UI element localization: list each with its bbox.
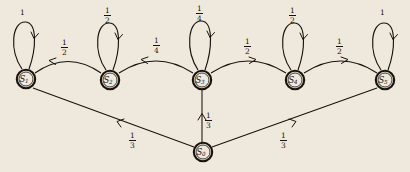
self-loop-label-s3: 1 4 xyxy=(196,5,203,22)
edge-s3-to-s4 xyxy=(211,61,286,73)
arrowhead-s4-to-s5 xyxy=(341,57,348,64)
self-loop-label-s2-denominator: 2 xyxy=(104,16,111,24)
state-node-s0[interactable]: S0 xyxy=(194,143,212,161)
transition-label-s0-s3-denominator: 3 xyxy=(205,121,212,129)
self-loop-label-s1: 1 xyxy=(20,9,25,17)
transition-label-s3-s4: 1 2 xyxy=(244,38,251,55)
transition-label-s3-s2-numerator: 1 xyxy=(153,37,160,46)
transition-label-s0-s5: 1 3 xyxy=(280,132,287,149)
state-node-s2[interactable]: S2 xyxy=(101,71,119,89)
transition-label-s2-s1-denominator: 2 xyxy=(61,48,68,56)
transition-label-s0-s5-denominator: 3 xyxy=(280,141,287,149)
transition-label-s3-s2: 1 4 xyxy=(153,37,160,54)
transition-label-s4-s5-numerator: 1 xyxy=(336,38,343,47)
self-loop-label-s3-denominator: 4 xyxy=(196,14,203,22)
transition-label-s4-s5-denominator: 2 xyxy=(336,47,343,55)
self-loop-label-s4-numerator: 1 xyxy=(289,7,296,16)
self-loop-label-s4-denominator: 2 xyxy=(289,16,296,24)
edge-s2-to-s1 xyxy=(35,62,101,74)
state-subscript-s3: 3 xyxy=(201,79,205,85)
state-node-s3[interactable]: S3 xyxy=(193,71,211,89)
state-subscript-s2: 2 xyxy=(108,79,113,85)
state-node-s4[interactable]: S4 xyxy=(286,71,304,89)
transition-label-s0-s1-numerator: 1 xyxy=(129,132,136,141)
edge-s3-to-s2 xyxy=(119,61,193,73)
self-loop-label-s4: 1 2 xyxy=(289,7,296,24)
transition-label-s0-s5-numerator: 1 xyxy=(280,132,287,141)
state-subscript-s5: 5 xyxy=(384,79,388,85)
transition-label-s0-s3-numerator: 1 xyxy=(205,112,212,121)
self-loop-s3 xyxy=(190,21,211,70)
edge-s0-to-s5 xyxy=(212,88,377,147)
edge-s0-to-s1 xyxy=(33,88,194,147)
transition-label-s0-s3: 1 3 xyxy=(205,112,212,129)
state-subscript-s1: 1 xyxy=(25,78,29,84)
state-diagram-canvas: S1 S2 S3 S4 S5 xyxy=(0,0,410,172)
transition-label-s0-s1-denominator: 3 xyxy=(129,141,136,149)
arrowhead-s0-to-s1 xyxy=(117,119,124,127)
self-loop-label-s2: 1 2 xyxy=(104,7,111,24)
transition-label-s4-s5: 1 2 xyxy=(336,38,343,55)
state-subscript-s0: 0 xyxy=(202,151,206,157)
state-node-s5[interactable]: S5 xyxy=(376,71,394,89)
transition-label-s3-s4-numerator: 1 xyxy=(244,38,251,47)
transition-label-s3-s2-denominator: 4 xyxy=(153,46,160,54)
self-loop-s2 xyxy=(98,23,119,70)
transition-label-s3-s4-denominator: 2 xyxy=(244,47,251,55)
self-loop-s1 xyxy=(14,22,35,69)
self-loop-label-s2-numerator: 1 xyxy=(104,7,111,16)
edge-s4-to-s5 xyxy=(304,61,377,73)
transition-label-s0-s1: 1 3 xyxy=(129,132,136,149)
self-loop-label-s5: 1 xyxy=(380,9,385,17)
state-node-s1[interactable]: S1 xyxy=(17,70,35,88)
transition-label-s2-s1-numerator: 1 xyxy=(61,39,68,48)
self-loop-label-s3-numerator: 1 xyxy=(196,5,203,14)
self-loop-s5 xyxy=(373,23,394,70)
arrowhead-s3-to-s4 xyxy=(249,57,256,64)
self-loop-s4 xyxy=(283,23,304,70)
state-subscript-s4: 4 xyxy=(293,79,298,85)
markov-chain-diagram: S1 S2 S3 S4 S5 xyxy=(0,0,410,172)
transition-label-s2-s1: 1 2 xyxy=(61,39,68,56)
arrowhead-s0-to-s5 xyxy=(289,119,296,127)
